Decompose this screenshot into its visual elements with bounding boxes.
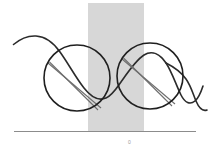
shaded-vertical-band bbox=[88, 3, 144, 132]
diagram-canvas bbox=[0, 0, 216, 154]
axis-tick-label: 0 bbox=[128, 140, 131, 145]
figure-container: 0 bbox=[0, 0, 216, 154]
curve-tail-right bbox=[166, 63, 207, 111]
